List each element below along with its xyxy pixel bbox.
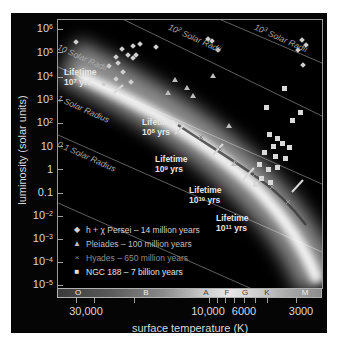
y-tick — [57, 285, 63, 286]
legend-item-h-chi-persei: ◆h + χ Persei – 14 million years — [72, 223, 200, 237]
x-tick-label: 30,000 — [69, 305, 103, 317]
y-tick — [57, 146, 63, 147]
x-tick — [217, 298, 218, 303]
y-tick-label: 106 — [37, 23, 53, 34]
legend-item-pleiades: ▲Pleiades – 100 million years — [72, 237, 200, 251]
x-tick — [76, 298, 77, 303]
x-tick-label: 3000 — [289, 305, 313, 317]
y-axis-title: luminosity (solar units) — [16, 95, 28, 204]
spectral-class-bar — [57, 288, 322, 298]
y-tick-label: 105 — [37, 47, 53, 58]
y-tick — [57, 100, 63, 101]
x-tick — [244, 298, 245, 303]
y-tick — [57, 216, 63, 217]
y-tick — [57, 239, 63, 240]
x-tick-label: 10,000 — [191, 305, 225, 317]
x-tick — [255, 298, 256, 303]
legend-item-hyades: ×Hyades – 650 million years — [72, 251, 200, 265]
y-tick-label: 10−3 — [33, 233, 53, 244]
square-icon: ■ — [72, 265, 82, 279]
y-tick — [57, 52, 63, 53]
lifetime-label-1e10: Lifetime1010 yrs — [189, 185, 222, 205]
spectral-class-m: M — [302, 288, 309, 298]
cross-icon: × — [72, 251, 82, 265]
y-tick-label: 102 — [37, 117, 53, 128]
y-tick — [57, 123, 63, 124]
x-tick-label: 6000 — [232, 305, 256, 317]
y-tick-label: 103 — [37, 94, 53, 105]
y-tick-label: 1 — [47, 164, 53, 175]
y-tick-label: 104 — [37, 71, 53, 82]
spectral-class-o: O — [75, 288, 81, 298]
legend: ◆h + χ Persei – 14 million years ▲Pleiad… — [72, 223, 200, 279]
y-tick-label: 10−2 — [33, 210, 53, 221]
spectral-class-f: F — [225, 288, 230, 298]
diamond-icon: ◆ — [72, 223, 82, 237]
x-tick — [296, 298, 297, 303]
lifetime-label-1e7: Lifetime107 yrs — [64, 67, 97, 87]
y-tick — [57, 262, 63, 263]
x-tick — [94, 298, 95, 303]
y-tick-label: 10−5 — [33, 279, 53, 290]
x-tick — [225, 298, 226, 303]
x-tick — [209, 298, 210, 303]
spectral-class-g: G — [242, 288, 248, 298]
triangle-icon: ▲ — [72, 237, 82, 251]
x-tick — [134, 298, 135, 303]
spectral-class-a: A — [203, 288, 208, 298]
lifetime-label-1e8: Lifetime108 yrs — [142, 117, 175, 137]
lifetime-label-1e11: Lifetime1011 yrs — [216, 213, 249, 233]
y-tick — [57, 193, 63, 194]
y-tick-label: 10 — [41, 141, 53, 152]
spectral-class-b: B — [143, 288, 148, 298]
x-tick — [234, 298, 235, 303]
y-tick — [57, 169, 63, 170]
y-tick — [57, 29, 63, 30]
y-tick-label: 10−4 — [33, 256, 53, 267]
x-axis-title: surface temperature (K) — [132, 322, 248, 334]
y-tick — [57, 77, 63, 78]
y-tick-label: 0.1 — [38, 187, 53, 198]
spectral-class-k: K — [264, 288, 269, 298]
lifetime-label-1e9: Lifetime109 yrs — [155, 154, 188, 174]
legend-item-ngc-188: ■NGC 188 – 7 billion years — [72, 265, 200, 279]
x-tick — [267, 298, 268, 303]
